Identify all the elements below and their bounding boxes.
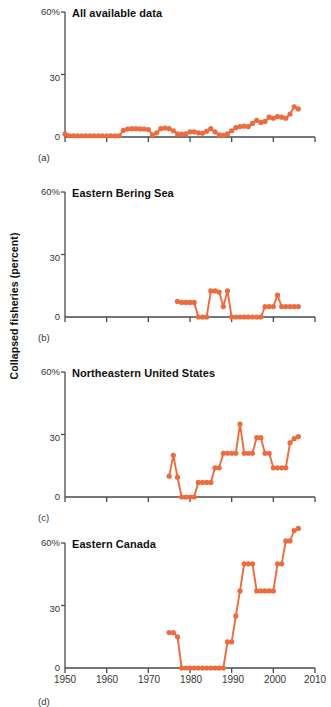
panel-c-title: Northeastern United States <box>72 367 215 379</box>
panel-c-label: (c) <box>38 512 49 523</box>
panel-b-label: (b) <box>38 332 50 343</box>
panel-eastern-bering-sea: Eastern Bering Sea 60% 30 0 (b) <box>0 180 324 360</box>
panel-a-ytick-60: 60% <box>16 6 60 17</box>
panel-northeastern-united-states: Northeastern United States 60% 30 0 (c) <box>0 360 324 540</box>
xtick-2010: 2010 <box>295 674 331 685</box>
panel-a-ytick-0: 0 <box>16 131 60 142</box>
panel-b-title: Eastern Bering Sea <box>72 187 174 199</box>
xtick-1950: 1950 <box>45 674 85 685</box>
panel-d-ytick-30: 30 <box>16 603 60 614</box>
panel-d-ytick-60: 60% <box>16 537 60 548</box>
panel-eastern-canada: Eastern Canada 60% 30 0 (d) 1950 1960 19… <box>0 524 324 704</box>
panel-a-title: All available data <box>72 7 162 19</box>
panel-b-ytick-30: 30 <box>16 252 60 263</box>
panel-d-title: Eastern Canada <box>72 538 156 550</box>
panel-b-ytick-60: 60% <box>16 186 60 197</box>
xtick-1990: 1990 <box>213 674 253 685</box>
xtick-1960: 1960 <box>87 674 127 685</box>
panel-c-ytick-30: 30 <box>16 432 60 443</box>
panel-d-label: (d) <box>38 696 50 707</box>
xtick-1980: 1980 <box>171 674 211 685</box>
panel-a-ytick-30: 30 <box>16 72 60 83</box>
xtick-1970: 1970 <box>129 674 169 685</box>
xtick-2000: 2000 <box>255 674 295 685</box>
panel-all-available-data: All available data 60% 30 0 (a) <box>0 0 324 180</box>
panel-c-ytick-60: 60% <box>16 366 60 377</box>
panel-b-ytick-0: 0 <box>16 311 60 322</box>
panel-c-ytick-0: 0 <box>16 491 60 502</box>
panel-a-label: (a) <box>38 152 50 163</box>
panel-d-ytick-0: 0 <box>16 662 60 673</box>
